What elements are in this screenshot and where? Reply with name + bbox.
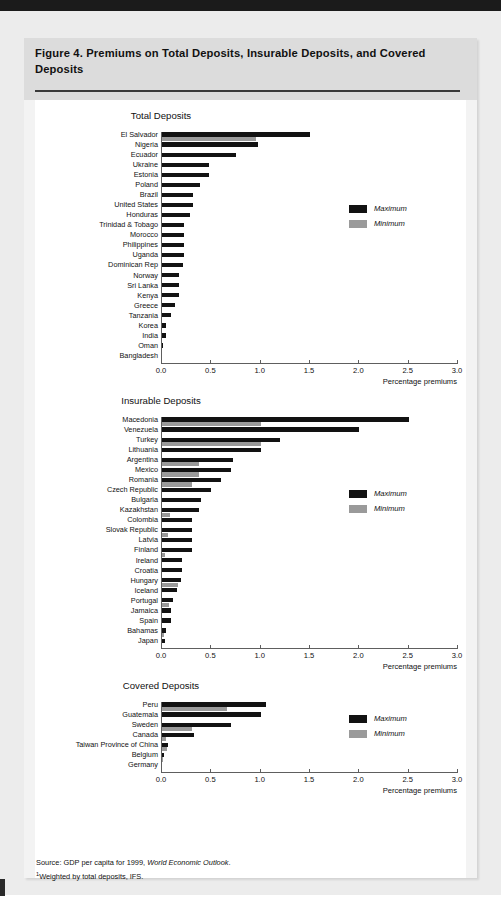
category-label: Mexico bbox=[39, 466, 158, 473]
chart-2: Insurable Deposits0.00.51.01.52.02.53.0P… bbox=[35, 385, 466, 645]
x-tick-label: 1.0 bbox=[247, 651, 273, 660]
figure-panel: Figure 4. Premiums on Total Deposits, In… bbox=[24, 38, 477, 878]
x-tick bbox=[358, 360, 359, 364]
category-label: Spain bbox=[39, 617, 158, 624]
title-divider bbox=[35, 90, 460, 92]
category-label: Argentina bbox=[39, 456, 158, 463]
bar-maximum bbox=[162, 639, 165, 643]
bar-minimum bbox=[162, 727, 192, 731]
bar-maximum bbox=[162, 142, 258, 146]
legend-swatch-min bbox=[349, 220, 367, 228]
chart-1: Total Deposits0.00.51.01.52.02.53.0Perce… bbox=[35, 100, 466, 360]
category-label: Latvia bbox=[39, 536, 158, 543]
category-label: Dominican Rep bbox=[39, 261, 158, 268]
bar-maximum bbox=[162, 588, 177, 592]
bar-maximum bbox=[162, 712, 261, 716]
bar-maximum bbox=[162, 233, 184, 237]
chart-title-1: Total Deposits bbox=[51, 110, 271, 121]
x-tick-label: 2.0 bbox=[345, 366, 371, 375]
bar-maximum bbox=[162, 283, 179, 287]
category-label: Kazakhstan bbox=[39, 506, 158, 513]
figure-title: Figure 4. Premiums on Total Deposits, In… bbox=[35, 46, 455, 77]
category-label: India bbox=[39, 332, 158, 339]
bar-maximum bbox=[162, 598, 173, 602]
bar-maximum bbox=[162, 448, 261, 452]
bar-maximum bbox=[162, 528, 192, 532]
category-label: Bangladesh bbox=[39, 352, 158, 359]
legend-swatch-min bbox=[349, 730, 367, 738]
category-label: Philippines bbox=[39, 241, 158, 248]
chart-title-2: Insurable Deposits bbox=[51, 395, 271, 406]
category-label: Colombia bbox=[39, 516, 158, 523]
bar-maximum bbox=[162, 468, 231, 472]
category-label: Guatemala bbox=[39, 711, 158, 718]
category-label: Sweden bbox=[39, 721, 158, 728]
charts-container: Total Deposits0.00.51.01.52.02.53.0Perce… bbox=[35, 100, 466, 878]
top-dark-band bbox=[0, 0, 501, 11]
x-tick bbox=[408, 645, 409, 649]
bar-maximum bbox=[162, 313, 171, 317]
category-label: Bulgaria bbox=[39, 496, 158, 503]
x-tick bbox=[358, 645, 359, 649]
x-tick-label: 0.5 bbox=[197, 651, 223, 660]
legend-swatch-max bbox=[349, 490, 367, 498]
category-label: Turkey bbox=[39, 436, 158, 443]
bar-maximum bbox=[162, 743, 168, 747]
category-label: El Salvador bbox=[39, 131, 158, 138]
category-label: Iceland bbox=[39, 587, 158, 594]
legend-label-min: Minimum bbox=[374, 504, 405, 513]
category-label: Morocco bbox=[39, 231, 158, 238]
source-prefix: Source: GDP per capita for 1999, bbox=[36, 858, 147, 867]
bar-maximum bbox=[162, 753, 164, 757]
x-tick bbox=[408, 360, 409, 364]
legend-label-max: Maximum bbox=[374, 489, 407, 498]
bar-minimum bbox=[162, 472, 199, 476]
x-tick-label: 0.5 bbox=[197, 775, 223, 784]
x-axis-label: Percentage premiums bbox=[337, 786, 457, 795]
source-note: Source: GDP per capita for 1999, World E… bbox=[36, 858, 456, 882]
bar-maximum bbox=[162, 733, 194, 737]
category-label: Hungary bbox=[39, 577, 158, 584]
bar-maximum bbox=[162, 243, 184, 247]
bar-minimum bbox=[162, 462, 199, 466]
category-label: Trinidad & Tobago bbox=[39, 221, 158, 228]
bar-maximum bbox=[162, 343, 163, 347]
legend-label-max: Maximum bbox=[374, 714, 407, 723]
category-label: Germany bbox=[39, 761, 158, 768]
x-tick-label: 3.0 bbox=[444, 775, 470, 784]
bar-maximum bbox=[162, 303, 175, 307]
bar-maximum bbox=[162, 508, 199, 512]
bar-maximum bbox=[162, 558, 182, 562]
x-tick bbox=[161, 769, 162, 773]
legend-swatch-min bbox=[349, 505, 367, 513]
bar-maximum bbox=[162, 173, 209, 177]
x-tick-label: 1.5 bbox=[296, 651, 322, 660]
category-label: Japan bbox=[39, 637, 158, 644]
bar-maximum bbox=[162, 548, 192, 552]
bar-maximum bbox=[162, 478, 221, 482]
category-label: Finland bbox=[39, 546, 158, 553]
bar-maximum bbox=[162, 333, 166, 337]
category-label: Kenya bbox=[39, 292, 158, 299]
category-label: Poland bbox=[39, 181, 158, 188]
bar-minimum bbox=[162, 442, 261, 446]
bar-maximum bbox=[162, 498, 201, 502]
bar-maximum bbox=[162, 427, 359, 431]
x-tick bbox=[457, 645, 458, 649]
page-background: Figure 4. Premiums on Total Deposits, In… bbox=[0, 11, 501, 895]
x-tick-label: 0.0 bbox=[148, 651, 174, 660]
bar-maximum bbox=[162, 323, 166, 327]
x-tick-label: 3.0 bbox=[444, 651, 470, 660]
bar-maximum bbox=[162, 417, 409, 421]
x-tick-label: 0.0 bbox=[148, 775, 174, 784]
bar-minimum bbox=[162, 757, 163, 761]
bar-maximum bbox=[162, 163, 209, 167]
bar-minimum bbox=[162, 482, 192, 486]
x-tick bbox=[309, 360, 310, 364]
category-label: Czech Republic bbox=[39, 486, 158, 493]
category-label: Norway bbox=[39, 272, 158, 279]
x-tick-label: 2.5 bbox=[395, 366, 421, 375]
bar-minimum bbox=[162, 737, 166, 741]
x-tick bbox=[457, 769, 458, 773]
category-label: Croatia bbox=[39, 567, 158, 574]
